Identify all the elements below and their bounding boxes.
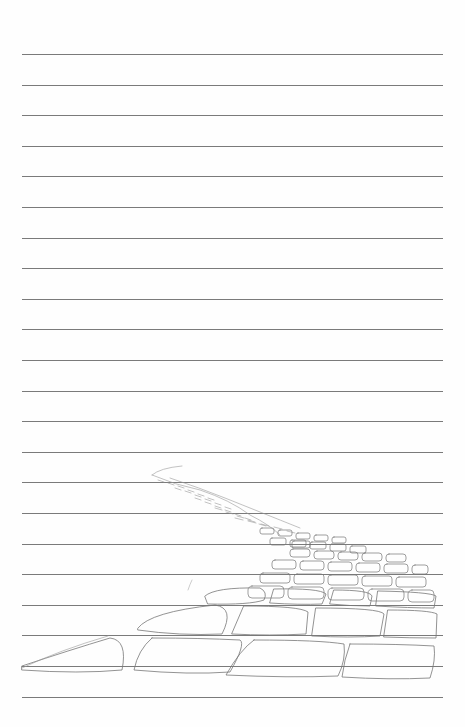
cobblestone-road-sketch [0, 0, 465, 727]
lined-paper-page [0, 0, 465, 727]
